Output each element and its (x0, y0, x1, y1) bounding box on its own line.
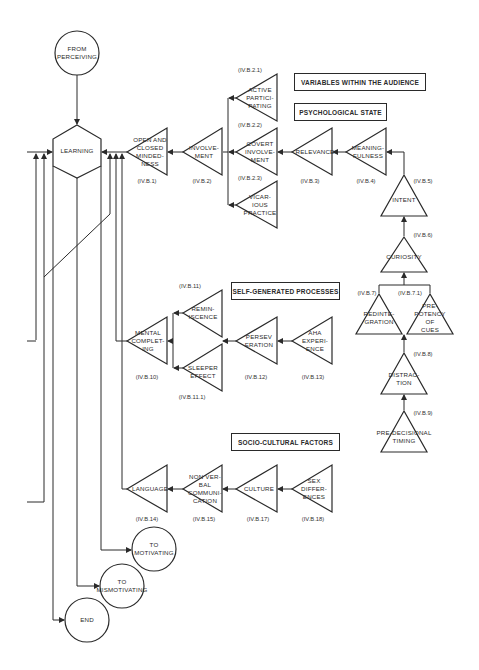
nonverbal-label: NON VER- BAL COMMUNI- CATION (188, 473, 222, 505)
distraction-label: DISTRAC- TION (389, 371, 420, 387)
redintegration-code: (IV.B.7) (357, 290, 376, 296)
language-label: LANGUAGE (132, 485, 168, 493)
culture-label: CULTURE (244, 485, 274, 493)
relevance-label: RELEVANCE (296, 148, 335, 156)
end-label: END (80, 616, 94, 624)
predecisional-code: (IV.B.9) (413, 410, 432, 416)
sex-label: SEX DIFFER- ENCES (301, 477, 327, 501)
from-perceiving-label: FROM PERCEIVING (57, 45, 97, 61)
open-closed-label: OPEN AND CLOSED MINDED- NESS (133, 136, 167, 168)
meaningfulness-code: (IV.B.4) (356, 178, 375, 184)
prepotency-label: PRE- POTENCY OF CUES (414, 302, 445, 334)
sleeper-label: SLEEPER EFFECT (188, 364, 218, 380)
relevance-code: (IV.B.3) (300, 178, 319, 184)
aha-code: (IV.B.13) (302, 374, 324, 380)
self-generated-box: SELF-GENERATED PROCESSES (231, 282, 340, 300)
language-code: (IV.B.14) (136, 516, 158, 522)
involvement-code: (IV.B.2) (192, 178, 211, 184)
flow-diagram-lines (0, 0, 479, 670)
curiosity-label: CURIOSITY (386, 253, 422, 261)
prepotency-code: (IV.B.7.1) (398, 290, 422, 296)
distraction-code: (IV.B.8) (413, 351, 432, 357)
psych-box: PSYCHOLOGICAL STATE (294, 103, 387, 121)
audience-box: VARIABLES WITHIN THE AUDIENCE (294, 73, 426, 91)
reminiscence-code: (IV.B.11) (179, 283, 201, 289)
perseveration-code: (IV.B.12) (245, 374, 267, 380)
covert-code: (IV.B.2.2) (238, 122, 262, 128)
to-mismotivating-label: TO MISMOTIVATING (96, 578, 147, 594)
reminiscence-label: REMIN- ISCENCE (189, 305, 218, 321)
sleeper-code: (IV.B.11.1) (179, 394, 206, 400)
active-code: (IV.B.2.1) (238, 67, 262, 73)
nonverbal-code: (IV.B.15) (193, 516, 215, 522)
perseveration-label: PERSEV ERATION (245, 333, 273, 349)
redintegration-label: REDINTE- GRATION (364, 310, 395, 326)
involvement-label: INVOLVE- MENT (189, 144, 219, 160)
learning-label: LEARNING (60, 147, 93, 155)
open-closed-code: (IV.B.1) (137, 178, 156, 184)
vicarious-code: (IV.B.2.3) (238, 175, 262, 181)
aha-label: AHA EXPERI- ENCE (302, 329, 328, 353)
active-label: ACTIVE PARTICI- PATING (246, 86, 274, 110)
curiosity-code: (IV.B.6) (413, 232, 432, 238)
culture-code: (IV.B.17) (247, 516, 269, 522)
predecisional-label: PRE-DECISIONAL TIMING (376, 429, 431, 445)
mental-label: MENTAL COMPLET- ING (131, 329, 164, 353)
sex-code: (IV.B.18) (302, 516, 324, 522)
covert-label: COVERT INVOLVE- MENT (245, 140, 275, 164)
intent-label: INTENT (392, 196, 416, 204)
socio-cultural-box: SOCIO-CULTURAL FACTORS (231, 433, 340, 451)
meaningfulness-label: MEANING- FULNESS (352, 144, 385, 160)
mental-code: (IV.B.10) (136, 374, 158, 380)
vicarious-label: VICAR- IOUS PRACTICE (244, 193, 277, 217)
intent-code: (IV.B.5) (413, 178, 432, 184)
to-motivating-label: TO MOTIVATING (134, 541, 174, 557)
